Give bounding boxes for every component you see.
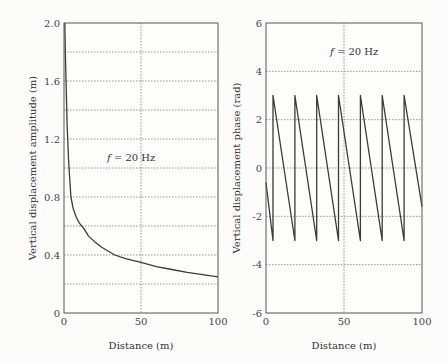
y-tick-label: 0 [54, 308, 60, 319]
x-axis-label: Distance (m) [109, 340, 174, 351]
x-tick-label: 50 [338, 316, 351, 327]
y-tick-label: 1.2 [44, 134, 60, 145]
y-tick-label: 0 [256, 163, 262, 174]
y-axis-label: Vertical displacement phase (rad) [231, 82, 242, 254]
y-tick-label: 6 [256, 18, 262, 29]
chart-canvas: 00.40.81.21.62.0050100Distance (m)Vertic… [0, 0, 447, 363]
y-tick-label: 2.0 [44, 18, 60, 29]
y-tick-label: 4 [256, 66, 262, 77]
phase-plot: -6-4-20246050100Distance (m)Vertical dis… [231, 18, 432, 352]
x-tick-label: 0 [263, 316, 269, 327]
y-tick-label: 0.8 [44, 192, 60, 203]
x-tick-label: 50 [135, 316, 148, 327]
x-tick-label: 100 [412, 316, 431, 327]
y-tick-label: -2 [252, 211, 262, 222]
y-tick-label: -4 [252, 259, 262, 270]
x-tick-label: 100 [208, 316, 227, 327]
x-axis-label: Distance (m) [312, 340, 377, 351]
frequency-annotation: f = 20 Hz [106, 152, 155, 163]
y-tick-label: 2 [256, 114, 262, 125]
x-tick-label: 0 [61, 316, 67, 327]
y-tick-label: -6 [252, 308, 262, 319]
frequency-annotation: f = 20 Hz [329, 46, 378, 57]
y-tick-label: 1.6 [44, 76, 60, 87]
y-tick-label: 0.4 [44, 250, 60, 261]
amplitude-plot: 00.40.81.21.62.0050100Distance (m)Vertic… [27, 18, 228, 352]
y-axis-label: Vertical displacement amplitude (m) [27, 76, 38, 262]
